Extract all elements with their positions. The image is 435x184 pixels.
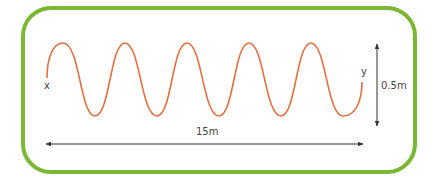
sine-wave	[47, 43, 362, 116]
start-point-label: x	[44, 80, 50, 91]
length-label: 15m	[196, 126, 218, 137]
amplitude-label: 0.5m	[381, 80, 407, 91]
wave-diagram	[0, 0, 435, 184]
end-point-label: y	[361, 66, 367, 77]
